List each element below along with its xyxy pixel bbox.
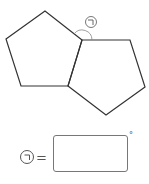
angle-arc (74, 30, 92, 40)
giyeok-icon (21, 151, 33, 163)
angle-label-circle (86, 17, 97, 28)
answer-input-box[interactable] (53, 135, 128, 172)
equals-sign: = (36, 151, 47, 164)
left-pentagon (6, 11, 82, 86)
right-pentagon (68, 40, 145, 115)
degree-unit: ° (129, 131, 133, 140)
angle-label-glyph (88, 20, 93, 25)
angle-marker-label (20, 150, 34, 164)
pentagon-figure (0, 0, 149, 130)
